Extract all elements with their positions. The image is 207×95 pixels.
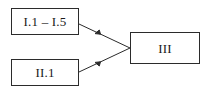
node-group-iii: III — [130, 32, 200, 64]
node-group-i: I.1 – I.5 — [11, 8, 79, 35]
arrowhead-edge-group-i-to-group-iii — [95, 30, 101, 34]
edge-group-i-to-group-iii — [79, 24, 130, 48]
node-group-iii-label: III — [158, 42, 172, 55]
edge-group-ii-to-group-iii — [79, 48, 130, 72]
node-group-ii: II.1 — [11, 59, 79, 86]
node-group-ii-label: II.1 — [35, 66, 54, 79]
node-group-i-label: I.1 – I.5 — [24, 15, 67, 28]
arrowhead-edge-group-ii-to-group-iii — [95, 62, 101, 66]
diagram-canvas: I.1 – I.5 II.1 III — [0, 0, 207, 95]
